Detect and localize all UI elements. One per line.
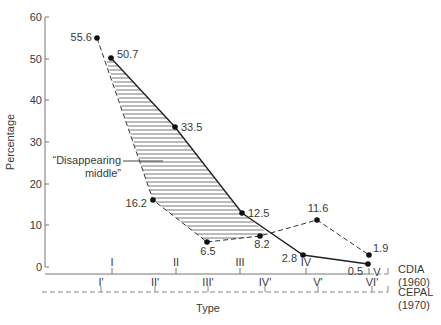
cepal-axis: I' II' III' IV' V' VI' CEPAL (1970) Type <box>42 276 433 314</box>
data-point <box>300 252 306 258</box>
point-label: 1.9 <box>373 242 388 254</box>
cepal-type-label: IV' <box>259 276 272 288</box>
data-point <box>239 210 245 216</box>
y-tick-label: 20 <box>30 178 42 190</box>
data-point <box>150 197 156 203</box>
cdia-legend-label: CDIA <box>398 263 425 275</box>
y-tick-label: 10 <box>30 219 42 231</box>
point-label: 0.5 <box>348 265 363 277</box>
data-point <box>314 217 320 223</box>
cepal-legend-label: CEPAL <box>398 286 433 298</box>
data-point <box>365 261 371 267</box>
chart: 60 50 40 30 20 10 0 Percentage I II III … <box>0 0 441 325</box>
data-point <box>108 55 114 61</box>
y-tick-label: 60 <box>30 11 42 23</box>
cdia-type-label: II <box>173 256 179 268</box>
cepal-type-label: III' <box>202 276 213 288</box>
data-point <box>366 252 372 258</box>
annotation-text: middle” <box>85 167 121 179</box>
cepal-type-label: II' <box>151 276 159 288</box>
point-label: 55.6 <box>71 31 92 43</box>
data-point <box>94 35 100 41</box>
cdia-type-label: I <box>110 256 113 268</box>
point-label: 33.5 <box>181 121 202 133</box>
point-label: 2.8 <box>282 252 297 264</box>
x-axis-label: Type <box>196 302 220 314</box>
annotation-text: “Disappearing <box>53 154 121 166</box>
point-label: 50.7 <box>117 48 138 60</box>
point-label: 12.5 <box>248 207 269 219</box>
point-label: 16.2 <box>126 197 147 209</box>
data-point <box>204 239 210 245</box>
data-point <box>172 124 178 130</box>
cepal-legend-label: (1970) <box>398 299 430 311</box>
y-tick-label: 0 <box>36 261 42 273</box>
point-label: 11.6 <box>308 202 329 214</box>
cepal-type-label: VI' <box>366 276 379 288</box>
point-label: 6.5 <box>200 245 215 257</box>
cepal-type-label: I' <box>98 276 103 288</box>
y-tick-label: 40 <box>30 94 42 106</box>
y-tick-label: 30 <box>30 136 42 148</box>
cdia-type-label: IV <box>301 256 312 268</box>
y-axis: 60 50 40 30 20 10 0 Percentage <box>4 11 49 273</box>
y-axis-label: Percentage <box>4 114 16 170</box>
cdia-type-label: III <box>235 256 244 268</box>
cepal-type-label: V' <box>313 276 322 288</box>
y-tick-label: 50 <box>30 53 42 65</box>
point-label: 8.2 <box>254 238 269 250</box>
